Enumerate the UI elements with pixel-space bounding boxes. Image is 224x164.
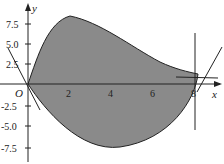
y-tick-label: 2.5 xyxy=(6,59,19,70)
x-tick-label: 4 xyxy=(108,88,113,99)
y-tick-label: -5.0 xyxy=(1,121,17,132)
y-tick-label: -2.5 xyxy=(1,101,17,112)
x-axis-arrow xyxy=(214,81,222,87)
x-tick-label: 8 xyxy=(191,88,196,99)
y-tick-label: 5.0 xyxy=(6,39,19,50)
x-tick-label: 2 xyxy=(66,88,71,99)
y-axis-label: y xyxy=(31,2,37,14)
y-tick-label: 7.5 xyxy=(6,19,19,30)
origin-label: O xyxy=(15,87,23,99)
y-axis-arrow xyxy=(25,3,31,11)
area-chart: y x O 2 4 6 8 7.5 5.0 2.5 -2.5 -5.0 -7.5 xyxy=(0,0,224,164)
x-axis-label: x xyxy=(211,88,217,100)
y-tick-label: -7.5 xyxy=(1,143,17,154)
x-tick-label: 6 xyxy=(150,88,155,99)
shaded-region xyxy=(28,16,198,147)
